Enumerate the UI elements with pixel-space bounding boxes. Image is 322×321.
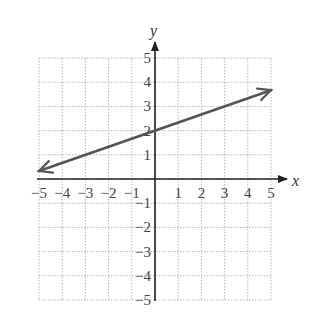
axes (37, 42, 287, 301)
x-tick-label: 4 (244, 185, 252, 201)
x-tick-label: 5 (267, 185, 275, 201)
x-tick-label: −2 (101, 185, 117, 201)
y-axis-label: y (148, 22, 158, 40)
y-tick-label: −3 (135, 244, 151, 260)
x-axis-label: x (291, 172, 299, 189)
y-tick-label: −2 (135, 219, 151, 235)
x-tick-label: −5 (31, 185, 47, 201)
x-tick-label: −3 (77, 185, 93, 201)
y-tick-label: −4 (135, 268, 151, 284)
x-tick-label: 2 (198, 185, 206, 201)
x-tick-label: −4 (54, 185, 70, 201)
y-tick-label: −5 (135, 292, 151, 308)
x-tick-label: 3 (221, 185, 229, 201)
coordinate-plane: −5−4−3−2−11234554321−1−2−3−4−5 x y (0, 0, 322, 321)
y-tick-label: 5 (144, 50, 152, 66)
y-tick-label: 4 (144, 74, 152, 90)
y-tick-label: −1 (135, 195, 151, 211)
x-tick-label: 1 (174, 185, 182, 201)
y-tick-label: 1 (144, 147, 152, 163)
y-tick-label: 2 (144, 123, 152, 139)
y-tick-label: 3 (144, 98, 152, 114)
